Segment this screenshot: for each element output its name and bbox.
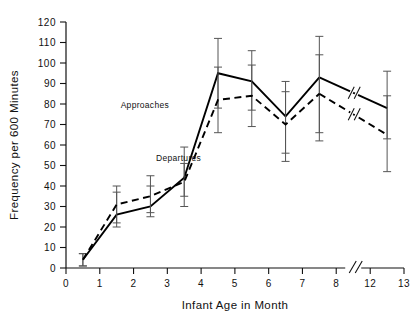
x-tick-label: 12 <box>364 278 376 289</box>
chart-series-layer <box>79 36 391 266</box>
y-tick-label: 20 <box>44 222 56 233</box>
x-tick-label: 5 <box>232 278 238 289</box>
chart-figure: 0102030405060708090100110120012345678121… <box>0 0 420 313</box>
x-tick-label: 2 <box>131 278 137 289</box>
series-line <box>83 94 319 260</box>
y-tick-label: 30 <box>44 201 56 212</box>
series-line-break-span <box>319 77 387 108</box>
x-tick-label: 7 <box>299 278 305 289</box>
y-tick-label: 40 <box>44 181 56 192</box>
series-line-break-span <box>319 94 387 135</box>
y-tick-label: 60 <box>44 140 56 151</box>
y-tick-label: 100 <box>38 58 56 69</box>
x-tick-label: 13 <box>398 278 410 289</box>
series-departures <box>79 55 391 266</box>
y-axis-title: Frequency per 600 Minutes <box>8 70 20 220</box>
x-tick-label: 1 <box>97 278 103 289</box>
x-axis-break-slash <box>355 261 362 273</box>
series-line <box>83 73 319 260</box>
error-bar <box>282 92 290 162</box>
chart-axes: 0102030405060708090100110120012345678121… <box>38 17 410 289</box>
y-tick-label: 80 <box>44 99 56 110</box>
x-axis-break-slash <box>349 261 356 273</box>
x-tick-label: 0 <box>63 278 69 289</box>
x-tick-label: 4 <box>198 278 204 289</box>
y-tick-label: 120 <box>38 17 56 28</box>
series-annotation-approaches: Approaches <box>121 100 169 110</box>
series-approaches <box>79 36 391 266</box>
y-tick-label: 0 <box>50 263 56 274</box>
x-axis-title: Infant Age in Month <box>182 299 289 311</box>
y-tick-label: 90 <box>44 78 56 89</box>
y-tick-label: 10 <box>44 242 56 253</box>
x-tick-label: 8 <box>333 278 339 289</box>
x-tick-label: 3 <box>164 278 170 289</box>
series-annotation-departures: Departures <box>156 153 201 163</box>
y-tick-label: 70 <box>44 119 56 130</box>
x-tick-label: 6 <box>266 278 272 289</box>
y-tick-label: 50 <box>44 160 56 171</box>
y-tick-label: 110 <box>39 37 56 48</box>
